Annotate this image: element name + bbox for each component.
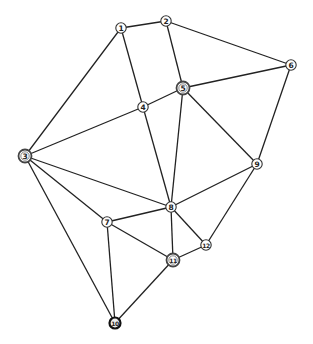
node-5: 5 <box>177 82 190 95</box>
node-10: 10 <box>110 318 121 329</box>
edge-3-8 <box>25 156 171 207</box>
node-label: 1 <box>118 24 123 33</box>
edge-2-5 <box>166 21 183 88</box>
edge-7-8 <box>107 207 171 222</box>
node-1: 1 <box>116 23 126 33</box>
edge-6-9 <box>257 65 291 164</box>
node-4: 4 <box>138 102 148 112</box>
node-11: 11 <box>167 254 180 267</box>
edge-4-8 <box>143 107 171 207</box>
node-6: 6 <box>286 60 296 70</box>
node-label: 8 <box>168 203 173 212</box>
node-2: 2 <box>161 16 171 26</box>
node-label: 2 <box>163 17 168 26</box>
edge-7-11 <box>107 222 173 260</box>
node-label: 9 <box>254 160 259 169</box>
edge-11-10 <box>115 260 173 323</box>
edge-5-6 <box>183 65 291 88</box>
node-label: 12 <box>202 242 210 249</box>
node-12: 12 <box>201 240 211 250</box>
node-label: 7 <box>104 218 109 227</box>
edges <box>25 21 291 323</box>
node-label: 11 <box>169 257 177 264</box>
edge-1-2 <box>121 21 166 28</box>
edge-1-3 <box>25 28 121 156</box>
node-label: 6 <box>288 61 293 70</box>
edge-7-10 <box>107 222 115 323</box>
edge-8-12 <box>171 207 206 245</box>
edge-1-4 <box>121 28 143 107</box>
edge-5-9 <box>183 88 257 164</box>
node-label: 3 <box>22 152 27 161</box>
node-label: 5 <box>180 84 185 93</box>
edge-3-10 <box>25 156 115 323</box>
edge-2-6 <box>166 21 291 65</box>
node-7: 7 <box>102 217 112 227</box>
node-8: 8 <box>166 202 176 212</box>
nodes: 123456789101112 <box>19 16 297 329</box>
node-3: 3 <box>19 150 32 163</box>
graph-diagram: 123456789101112 <box>0 0 313 344</box>
edge-5-8 <box>171 88 183 207</box>
edge-3-7 <box>25 156 107 222</box>
edge-8-11 <box>171 207 173 260</box>
node-9: 9 <box>252 159 262 169</box>
node-label: 4 <box>140 103 145 112</box>
node-label: 10 <box>111 320 119 327</box>
